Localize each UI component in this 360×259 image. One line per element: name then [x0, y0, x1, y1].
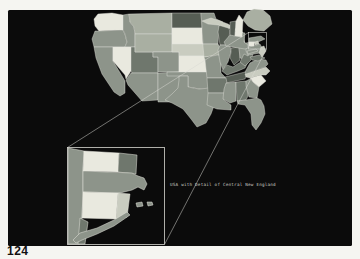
- figure-caption: USA with Detail of Central New England: [170, 182, 276, 187]
- inset-region-new-hampshire: [118, 153, 137, 174]
- inset-region-vermont: [83, 151, 119, 172]
- state-sd: [172, 28, 203, 44]
- book-page: USA with Detail of Central New England 1…: [0, 0, 360, 259]
- state-nd: [172, 13, 202, 28]
- page-number: 124: [7, 244, 29, 258]
- state-ct: [249, 42, 255, 46]
- state-mt: [129, 13, 172, 34]
- map-figure: USA with Detail of Central New England: [0, 0, 360, 259]
- inset-region-marthas-vineyard: [136, 202, 143, 207]
- inset-region-nantucket: [147, 202, 153, 206]
- state-or: [92, 30, 127, 47]
- state-wa: [94, 13, 123, 31]
- state-wy: [135, 34, 172, 52]
- inset-region-connecticut: [82, 192, 118, 219]
